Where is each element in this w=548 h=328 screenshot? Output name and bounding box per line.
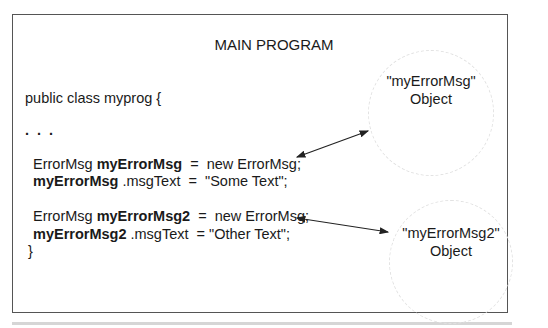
- arrow-2: [297, 218, 388, 232]
- reference-arrows: [0, 0, 548, 328]
- arrow-1: [297, 131, 368, 157]
